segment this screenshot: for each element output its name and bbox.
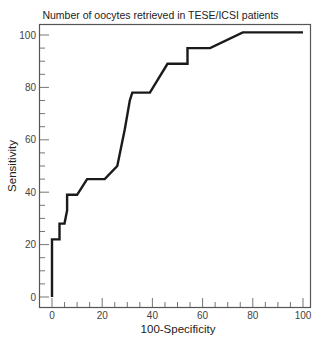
x-tick-label: 20 bbox=[97, 310, 109, 321]
y-tick-label: 20 bbox=[25, 239, 37, 250]
x-tick-label: 0 bbox=[49, 310, 55, 321]
x-axis-label: 100-Specificity bbox=[141, 323, 216, 335]
y-tick-label: 100 bbox=[19, 30, 36, 41]
x-tick-label: 60 bbox=[197, 310, 209, 321]
y-axis-ticks: 020406080100 bbox=[19, 30, 49, 303]
y-tick-label: 80 bbox=[25, 82, 37, 93]
y-tick-label: 40 bbox=[25, 187, 37, 198]
roc-curve-line bbox=[52, 32, 303, 297]
x-tick-label: 80 bbox=[247, 310, 259, 321]
plot-frame bbox=[40, 25, 311, 308]
x-tick-label: 40 bbox=[147, 310, 159, 321]
x-tick-label: 100 bbox=[295, 310, 312, 321]
y-axis-label: Sensitivity bbox=[6, 140, 18, 192]
y-tick-label: 0 bbox=[30, 292, 36, 303]
y-tick-label: 60 bbox=[25, 134, 37, 145]
roc-chart: 020406080100 020406080100 100-Specificit… bbox=[0, 0, 321, 338]
x-axis-ticks: 020406080100 bbox=[49, 298, 312, 321]
